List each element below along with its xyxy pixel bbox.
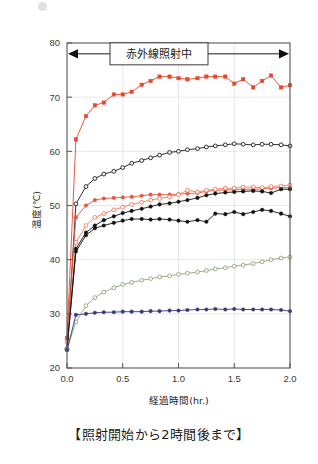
- y-tick-label: 60: [49, 146, 60, 157]
- data-point: [205, 308, 209, 312]
- data-point: [102, 212, 106, 216]
- data-point: [140, 194, 144, 198]
- data-point: [241, 263, 245, 267]
- grid-lines: [67, 43, 290, 368]
- data-point: [223, 143, 227, 147]
- data-point: [251, 308, 255, 312]
- data-point: [93, 296, 97, 300]
- data-point: [205, 220, 209, 224]
- data-point: [186, 78, 189, 81]
- data-point: [149, 309, 153, 313]
- data-point: [186, 220, 190, 224]
- x-tick-label: 2.0: [283, 373, 296, 384]
- x-tick-label: 1.5: [228, 373, 241, 384]
- y-tick-label: 30: [49, 308, 60, 319]
- data-point: [74, 250, 78, 254]
- data-point: [232, 142, 236, 146]
- data-point: [84, 233, 88, 237]
- data-point: [112, 208, 116, 212]
- data-point: [269, 142, 273, 146]
- temperature-time-line-chart: 203040506070800.00.51.01.52.0 赤外線照射中 経過時…: [0, 0, 318, 420]
- data-point: [102, 290, 106, 294]
- data-point: [279, 256, 283, 260]
- data-point: [186, 188, 190, 192]
- data-point: [158, 197, 162, 201]
- data-point: [168, 195, 172, 199]
- data-point: [232, 186, 236, 190]
- data-point: [130, 203, 134, 207]
- data-point: [224, 191, 228, 195]
- data-point: [93, 104, 96, 107]
- irradiation-annotation: 赤外線照射中: [68, 43, 289, 65]
- data-point: [260, 142, 264, 146]
- data-point: [204, 269, 208, 273]
- data-point: [140, 159, 144, 163]
- data-point: [214, 75, 217, 78]
- data-point: [213, 267, 217, 271]
- data-point: [177, 272, 181, 276]
- data-point: [158, 193, 162, 197]
- data-point: [260, 79, 263, 82]
- data-point: [196, 308, 200, 312]
- annotation-label: 赤外線照射中: [126, 47, 192, 61]
- data-point: [140, 217, 144, 221]
- data-point: [251, 189, 255, 193]
- data-point: [269, 191, 273, 195]
- data-point: [84, 114, 87, 117]
- data-point: [149, 79, 152, 82]
- data-point: [269, 308, 273, 312]
- data-point: [84, 185, 88, 189]
- data-point: [112, 221, 116, 225]
- y-tick-label: 50: [49, 200, 60, 211]
- data-point: [130, 217, 134, 221]
- y-tick-label: 20: [49, 362, 60, 373]
- data-point: [149, 205, 153, 209]
- data-point: [149, 156, 153, 160]
- data-point: [168, 202, 172, 206]
- data-point: [251, 185, 255, 189]
- data-point: [269, 185, 273, 189]
- arrow-head-right-icon: [279, 49, 289, 58]
- data-point: [241, 212, 245, 216]
- data-point: [177, 149, 181, 153]
- data-point: [232, 264, 236, 268]
- data-point: [158, 203, 162, 207]
- data-point: [84, 304, 88, 308]
- data-point: [204, 145, 208, 149]
- data-point: [241, 185, 245, 189]
- x-tick-label: 0.0: [60, 373, 73, 384]
- data-point: [279, 143, 283, 147]
- data-point: [121, 166, 125, 170]
- y-tick-label: 80: [49, 37, 60, 48]
- data-point: [140, 310, 144, 314]
- data-point: [223, 266, 227, 270]
- data-point: [112, 93, 115, 96]
- y-tick-label: 70: [49, 92, 60, 103]
- y-tick-label: 40: [49, 254, 60, 265]
- data-point: [149, 218, 153, 222]
- data-point: [241, 190, 245, 194]
- data-point: [260, 308, 264, 312]
- data-point: [102, 224, 106, 228]
- data-point: [130, 195, 134, 199]
- data-point: [102, 172, 106, 176]
- data-point: [158, 217, 162, 221]
- data-point: [102, 310, 106, 314]
- data-point: [168, 218, 172, 222]
- data-point: [121, 283, 125, 287]
- y-axis-label: 温度(℃): [31, 191, 42, 229]
- data-point: [158, 309, 162, 313]
- data-point: [140, 207, 144, 211]
- data-point: [251, 262, 255, 266]
- data-point: [93, 177, 97, 181]
- data-point: [205, 75, 208, 78]
- data-point: [196, 147, 200, 151]
- data-point: [121, 211, 125, 215]
- data-point: [112, 196, 116, 200]
- data-point: [204, 188, 208, 192]
- data-point: [213, 212, 217, 216]
- data-point: [84, 224, 88, 228]
- data-point: [102, 197, 106, 201]
- data-point: [149, 198, 153, 202]
- data-point: [251, 210, 255, 214]
